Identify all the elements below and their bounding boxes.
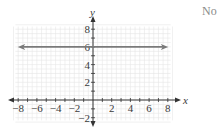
y-tick-label: 8 (85, 23, 91, 35)
coordinate-graph: −8−6−4−22468−22468 x y (0, 0, 220, 131)
y-tick-label: 2 (85, 76, 91, 88)
y-axis-down-arrow-icon (91, 121, 96, 127)
x-tick-label: −4 (50, 102, 62, 114)
x-tick-label: −6 (31, 102, 43, 114)
x-tick-label: 4 (128, 102, 134, 114)
x-tick-label: 6 (146, 102, 152, 114)
x-axis-right-arrow-icon (175, 98, 181, 103)
y-tick-label: −2 (78, 112, 90, 124)
x-tick-label: 8 (165, 102, 171, 114)
y-tick-label: 4 (85, 59, 91, 71)
y-axis-label: y (89, 6, 95, 18)
x-axis-label: x (182, 94, 188, 106)
x-tick-label: −8 (12, 102, 24, 114)
x-tick-label: 2 (109, 102, 115, 114)
answer-text: No (202, 4, 217, 19)
